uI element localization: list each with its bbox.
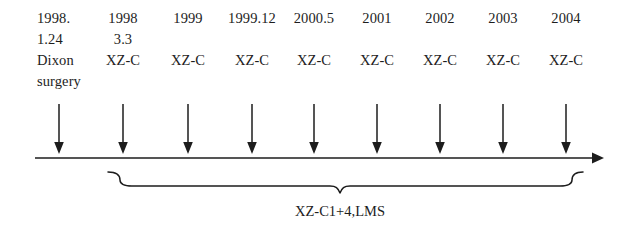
- brace-caption-text: XZ-C1+4,LMS: [295, 203, 385, 219]
- event-column-9: 2004XZ-C: [521, 8, 611, 92]
- treatment-timeline-figure: 1998.1.24Dixonsurgery19983.3XZ-C1999XZ-C…: [0, 0, 622, 234]
- brace-caption: XZ-C1+4,LMS: [190, 203, 490, 220]
- brace-path: [108, 172, 583, 193]
- event-label-line: XZ-C: [521, 50, 611, 71]
- event-label-line: [521, 29, 611, 50]
- timeline-axis-arrowhead: [592, 153, 604, 164]
- event-label-line: [521, 71, 611, 92]
- treatment-group-brace: [0, 166, 622, 198]
- event-label-line: 2004: [521, 8, 611, 29]
